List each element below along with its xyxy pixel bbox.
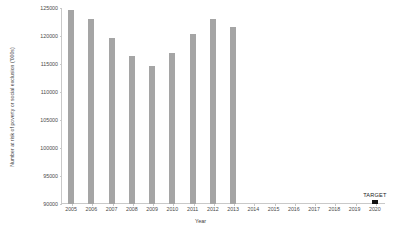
y-axis-tick-mark — [60, 204, 63, 205]
bar-chart: Number at risk of poverty or social excl… — [0, 0, 401, 242]
y-axis-tick-mark — [60, 120, 63, 121]
y-axis-tick-label: 115000 — [18, 61, 58, 67]
bar-2005 — [68, 10, 74, 204]
x-axis-tick-label-2020: 2020 — [369, 206, 381, 212]
bar-2007 — [109, 38, 115, 204]
plot-area: TARGET — [61, 8, 385, 204]
y-axis-title: Number at risk of poverty or social excl… — [9, 9, 15, 205]
bar-2012 — [210, 19, 216, 204]
x-axis-tick-label-2010: 2010 — [166, 206, 178, 212]
x-axis-tick-label-2016: 2016 — [288, 206, 300, 212]
x-axis-tick-label-2017: 2017 — [308, 206, 320, 212]
bar-2006 — [88, 19, 94, 204]
y-axis-tick-mark — [60, 92, 63, 93]
y-axis-tick-label: 90000 — [18, 201, 58, 207]
x-axis-tick-label-2018: 2018 — [328, 206, 340, 212]
y-axis-tick-label: 105000 — [18, 117, 58, 123]
bar-2008 — [129, 56, 135, 204]
y-axis-tick-label: 100000 — [18, 145, 58, 151]
y-axis-tick-mark — [60, 8, 63, 9]
x-axis-tick-label-2019: 2019 — [349, 206, 361, 212]
x-axis-tick-label-2014: 2014 — [247, 206, 259, 212]
x-axis-tick-label-2005: 2005 — [65, 206, 77, 212]
x-axis-tick-label-2008: 2008 — [126, 206, 138, 212]
x-axis-tick-labels: 2005200620072008200920102011201220132014… — [61, 206, 385, 218]
y-axis-tick-label: 110000 — [18, 89, 58, 95]
bar-2020 — [372, 200, 378, 204]
x-axis-tick-label-2009: 2009 — [146, 206, 158, 212]
bar-2009 — [149, 66, 155, 204]
x-axis-tick-label-2006: 2006 — [85, 206, 97, 212]
y-axis-tick-label: 120000 — [18, 33, 58, 39]
x-axis-tick-label-2013: 2013 — [227, 206, 239, 212]
y-axis-tick-label: 125000 — [18, 5, 58, 11]
x-axis-tick-label-2011: 2011 — [187, 206, 198, 212]
y-axis-tick-mark — [60, 36, 63, 37]
y-axis-tick-labels: 9000095000100000105000110000115000120000… — [18, 8, 58, 204]
x-axis-tick-label-2007: 2007 — [106, 206, 118, 212]
bar-2010 — [169, 53, 175, 204]
target-annotation: TARGET — [363, 192, 386, 198]
y-axis-tick-mark — [60, 64, 63, 65]
x-axis-tick-label-2012: 2012 — [207, 206, 219, 212]
y-axis-tick-mark — [60, 176, 63, 177]
y-axis-tick-mark — [60, 148, 63, 149]
bar-2011 — [190, 34, 196, 204]
y-axis-tick-label: 95000 — [18, 173, 58, 179]
x-axis-tick-label-2015: 2015 — [268, 206, 280, 212]
bar-2013 — [230, 27, 236, 204]
x-axis-title: Year — [0, 218, 401, 224]
